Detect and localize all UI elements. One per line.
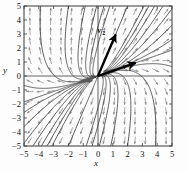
y-tick-label: −1: [12, 85, 21, 95]
eigenvector-v1-subscript: 1: [128, 66, 131, 72]
x-tick-label: −4: [34, 149, 44, 159]
y-tick-label: −3: [12, 113, 21, 123]
x-tick-label: 3: [140, 149, 144, 159]
x-tick-label: −1: [79, 149, 88, 159]
y-tick-label: −2: [12, 99, 21, 109]
x-axis-label: x: [94, 158, 98, 168]
x-tick-label: 2: [125, 149, 129, 159]
y-tick-label: 0: [17, 71, 21, 81]
x-tick-label: 1: [111, 149, 115, 159]
y-tick-label: −5: [12, 141, 21, 151]
x-tick-label: −2: [64, 149, 73, 159]
x-tick-label: −3: [49, 149, 58, 159]
y-tick-labels: −5−4−3−2−1012345: [12, 1, 22, 151]
phase-portrait-figure: v 1 v 2 −5−4−3−2−1012345 −5−4−3−2−101234…: [0, 0, 188, 171]
eigenvector-v2-label: v: [98, 26, 102, 35]
y-axis-label: y: [3, 65, 7, 75]
eigenvector-v1-label: v: [123, 62, 127, 71]
eigenvector-v2-subscript: 2: [103, 30, 106, 36]
y-tick-label: 4: [17, 15, 22, 25]
y-tick-label: 2: [17, 43, 21, 53]
y-tick-label: −4: [12, 127, 22, 137]
x-tick-label: 5: [170, 149, 174, 159]
y-tick-label: 3: [17, 29, 21, 39]
y-tick-label: 5: [17, 1, 21, 11]
x-tick-label: 4: [155, 149, 160, 159]
phase-portrait-svg: v 1 v 2 −5−4−3−2−1012345 −5−4−3−2−101234…: [0, 0, 188, 171]
y-tick-label: 1: [17, 57, 21, 67]
